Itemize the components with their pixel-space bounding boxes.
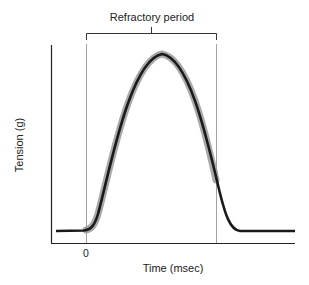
x-tick-0: 0 (83, 247, 89, 259)
x-axis-label: Time (msec) (143, 262, 204, 274)
tension-curve (56, 54, 295, 231)
refractory-bracket (87, 27, 217, 40)
twitch-diagram: Refractory period 0 Time (msec) Tension … (0, 0, 309, 285)
refractory-halo (86, 54, 216, 230)
y-axis-label: Tension (g) (13, 118, 25, 172)
bracket-label: Refractory period (110, 11, 194, 23)
